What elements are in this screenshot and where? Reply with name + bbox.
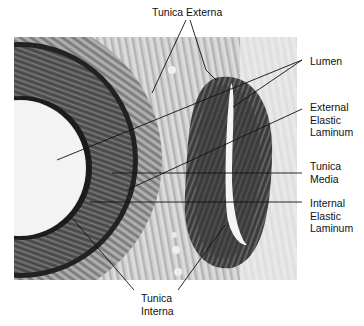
label-tunica-media: Tunica Media bbox=[310, 160, 341, 185]
label-line: Laminum bbox=[310, 222, 353, 235]
label-line: Elastic bbox=[310, 210, 353, 223]
label-internal-elastic-laminum: Internal Elastic Laminum bbox=[310, 197, 353, 235]
label-tunica-interna: Tunica Interna bbox=[141, 292, 174, 317]
label-line: Laminum bbox=[310, 126, 353, 139]
label-line: Elastic bbox=[310, 114, 353, 127]
label-lumen: Lumen bbox=[310, 55, 342, 68]
label-line: Tunica bbox=[310, 160, 341, 173]
label-line: External bbox=[310, 101, 353, 114]
label-line: Interna bbox=[141, 305, 174, 318]
tissue-section bbox=[0, 18, 297, 302]
label-line: Internal bbox=[310, 197, 353, 210]
label-external-elastic-laminum: External Elastic Laminum bbox=[310, 101, 353, 139]
label-line: Media bbox=[310, 173, 341, 186]
label-line: Tunica bbox=[141, 292, 174, 305]
histology-figure: Tunica Externa Lumen External Elastic La… bbox=[0, 0, 364, 326]
label-tunica-externa: Tunica Externa bbox=[152, 6, 222, 19]
label-line: Lumen bbox=[310, 55, 342, 68]
label-line: Tunica Externa bbox=[152, 6, 222, 19]
